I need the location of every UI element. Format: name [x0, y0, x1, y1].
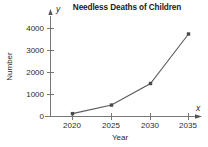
x-axis [45, 113, 202, 120]
chart-figure: Needless Deaths of Children y x Number Y… [0, 0, 208, 147]
y-axis [47, 9, 54, 117]
data-point-markers [71, 32, 190, 115]
data-series-line [73, 34, 189, 114]
data-point-2020 [71, 112, 74, 115]
data-point-2025 [110, 103, 113, 106]
data-point-2030 [149, 82, 152, 85]
data-point-2035 [187, 32, 190, 35]
plot-area [0, 0, 208, 147]
